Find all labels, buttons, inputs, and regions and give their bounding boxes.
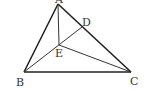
label-e: E <box>55 47 63 60</box>
label-a: A <box>54 0 64 6</box>
segment-ac <box>58 4 131 72</box>
segment-ae <box>58 4 59 45</box>
triangle-diagram: A D E B C <box>0 0 148 91</box>
segment-bd <box>24 27 82 72</box>
label-b: B <box>16 76 24 89</box>
segment-ab <box>24 4 58 72</box>
label-d: D <box>82 16 91 29</box>
segment-ec <box>59 45 131 72</box>
label-c: C <box>130 75 138 88</box>
